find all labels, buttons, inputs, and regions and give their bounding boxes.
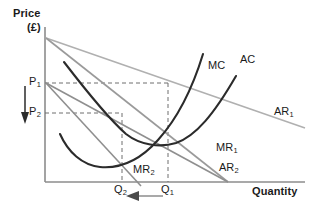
price-label-p2-sub: 2	[37, 110, 41, 119]
price-label-p2-base: P	[29, 105, 36, 117]
curve-label-mr2-base: MR	[133, 163, 150, 175]
curve-label-mr2-sub: 2	[150, 168, 154, 177]
curve-label-ar1: AR1	[274, 106, 293, 118]
curve-label-ar1-base: AR	[274, 105, 289, 117]
quantity-fall-arrow	[126, 191, 163, 201]
price-label-p1-sub: 1	[37, 80, 41, 89]
curve-label-mc: MC	[208, 60, 225, 72]
economics-diagram: Price (£) Quantity P1 P2 Q2 Q1 MC AC AR1…	[0, 0, 313, 211]
y-axis-title-price: Price	[13, 8, 40, 20]
quantity-label-q2-sub: 2	[123, 188, 127, 197]
mc-curve	[60, 54, 203, 167]
quantity-label-q2: Q2	[114, 184, 127, 196]
curve-label-mr2: MR2	[133, 164, 154, 176]
curve-label-mr1: MR1	[216, 142, 237, 154]
quantity-label-q2-base: Q	[114, 183, 123, 195]
x-axis-title-quantity: Quantity	[252, 186, 297, 198]
curve-label-ac: AC	[240, 54, 255, 66]
diagram-canvas	[0, 0, 313, 211]
curve-label-ac-base: AC	[240, 53, 255, 65]
quantity-label-q1: Q1	[161, 184, 174, 196]
price-label-p1-base: P	[29, 75, 36, 87]
price-fall-arrow	[21, 86, 29, 124]
price-label-p2: P2	[29, 106, 41, 118]
curve-label-ar2-base: AR	[219, 161, 234, 173]
quantity-label-q1-sub: 1	[170, 188, 174, 197]
quantity-label-q1-base: Q	[161, 183, 170, 195]
curve-label-mr1-base: MR	[216, 141, 233, 153]
y-axis-title-currency: (£)	[27, 22, 41, 34]
ar1-curve	[46, 38, 305, 128]
curve-label-mr1-sub: 1	[233, 146, 237, 155]
curve-label-ar2: AR2	[219, 162, 238, 174]
curve-label-mc-base: MC	[208, 59, 225, 71]
price-label-p1: P1	[29, 76, 41, 88]
curve-label-ar1-sub: 1	[290, 110, 294, 119]
curve-label-ar2-sub: 2	[235, 166, 239, 175]
